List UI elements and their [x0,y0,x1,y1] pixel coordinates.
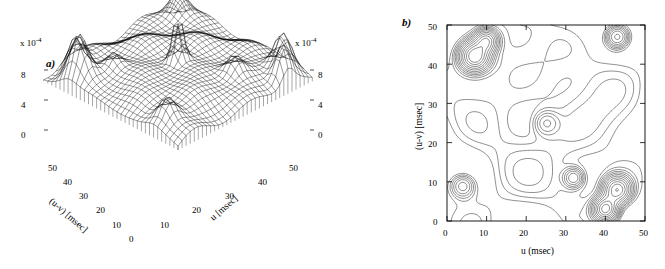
panel-b-contour-plot [0,0,665,269]
figure-root: x 10-4 x 10-4 a) 8 4 0 8 4 0 50 40 30 20… [0,0,665,269]
contour-lines [447,25,642,221]
panel-b-ticks [447,25,645,221]
panel-b-frame [447,25,645,221]
